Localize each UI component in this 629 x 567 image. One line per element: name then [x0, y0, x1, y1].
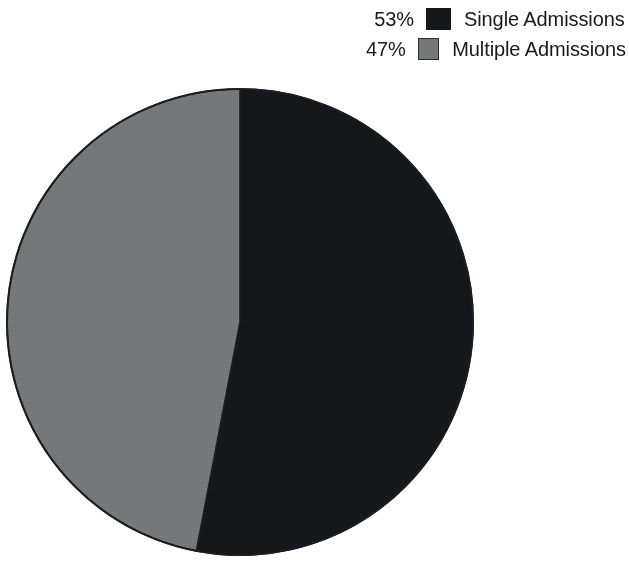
- legend-row-single-admissions[interactable]: 53% Single Admissions: [358, 4, 626, 34]
- legend-percent-multiple-admissions: 47%: [358, 39, 406, 59]
- pie-chart-svg: [0, 0, 629, 567]
- legend-label-multiple-admissions: Multiple Admissions: [452, 39, 626, 59]
- pie-slice-multiple-admissions[interactable]: [7, 89, 240, 551]
- legend-row-multiple-admissions[interactable]: 47% Multiple Admissions: [358, 34, 626, 64]
- pie-chart-figure: 53% Single Admissions 47% Multiple Admis…: [0, 0, 629, 567]
- pie-chart-area: [0, 0, 629, 567]
- legend-label-single-admissions: Single Admissions: [464, 9, 625, 29]
- legend-percent-single-admissions: 53%: [358, 9, 414, 29]
- legend-swatch-grey: [418, 38, 440, 60]
- chart-legend: 53% Single Admissions 47% Multiple Admis…: [358, 4, 626, 64]
- legend-swatch-black: [426, 8, 451, 30]
